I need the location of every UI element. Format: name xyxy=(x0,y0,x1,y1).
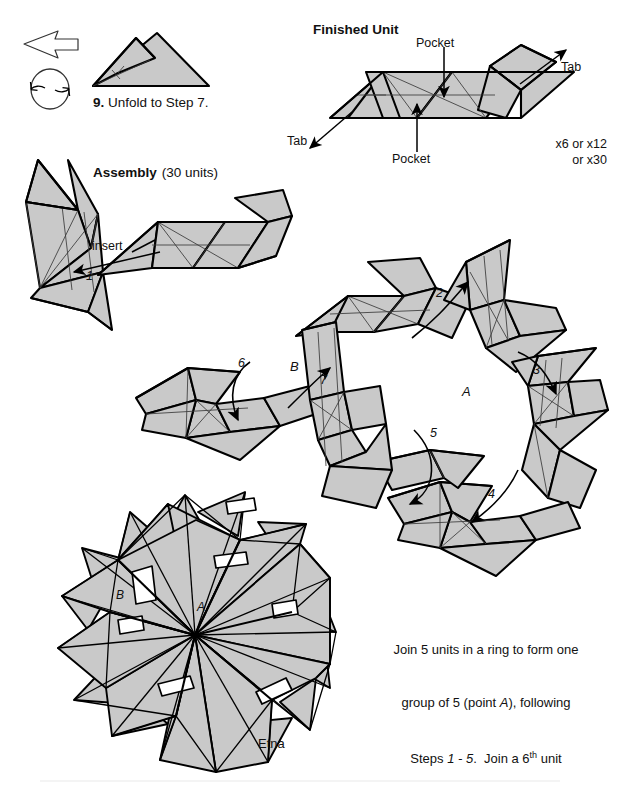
instr-3sup: th xyxy=(530,750,538,760)
instructions-line-3: Steps 1 - 5. Join a 6th unit xyxy=(358,747,614,768)
model-window-label: B xyxy=(116,588,124,602)
assembly-title: Assembly(30 units) xyxy=(93,165,218,181)
instr-3a: Steps xyxy=(410,751,447,766)
instr-3d: unit xyxy=(537,751,562,766)
tab-right-label: Tab xyxy=(561,60,581,75)
step-number-4: 4 xyxy=(488,487,495,502)
ring-unit-right xyxy=(512,348,608,508)
insert-label: insert xyxy=(92,239,123,254)
quantity-line-1: x6 or x12 xyxy=(455,137,607,152)
step-number-7: 7 xyxy=(320,373,327,388)
window-unit-left xyxy=(136,368,322,460)
assembly-unit-right xyxy=(98,190,292,275)
finished-unit-figure xyxy=(330,45,574,118)
tab-left-label: Tab xyxy=(287,134,307,149)
step-number-2: 2 xyxy=(436,286,443,301)
step-number-5: 5 xyxy=(430,426,437,441)
window-unit-vertical xyxy=(302,322,392,508)
pocket-top-label: Pocket xyxy=(416,36,454,51)
instr-3c: . Join a 6 xyxy=(473,751,529,766)
finished-unit-title: Finished Unit xyxy=(313,22,399,38)
diagram-page: 9. Unfold to Step 7. Finished Unit Pocke… xyxy=(0,0,617,795)
assembly-title-sub: (30 units) xyxy=(162,165,218,180)
model-center-label: A xyxy=(197,600,205,614)
instructions-line-1: Join 5 units in a ring to form one xyxy=(358,641,614,659)
instr-2c: ), following xyxy=(508,695,570,710)
model-caption: Etna xyxy=(258,736,285,751)
instr-2a: group of 5 (point xyxy=(401,695,499,710)
step9-caption: 9. Unfold to Step 7. xyxy=(93,95,209,111)
rotate-icon xyxy=(31,69,70,109)
ring-unit-upper-right xyxy=(444,240,566,372)
step9-text: Unfold to Step 7. xyxy=(104,95,208,110)
step-number-6: 6 xyxy=(238,356,245,371)
assembly-point-a: A xyxy=(462,384,471,399)
step9-number: 9. xyxy=(93,95,104,110)
step-number-3: 3 xyxy=(533,363,540,378)
quantity-line-2: or x30 xyxy=(455,153,607,168)
instructions-paragraph: Join 5 units in a ring to form one group… xyxy=(358,606,614,795)
assembly-point-b: B xyxy=(290,359,299,374)
instructions-line-2: group of 5 (point A), following xyxy=(358,694,614,712)
step-number-1: 1 xyxy=(86,269,93,284)
pocket-bottom-label: Pocket xyxy=(392,152,430,167)
instr-3b: 1 - 5 xyxy=(447,751,473,766)
assembly-title-main: Assembly xyxy=(93,165,157,180)
etna-finished-model xyxy=(58,492,336,772)
turn-over-arrow-icon xyxy=(24,31,78,58)
step9-triangle-figure xyxy=(93,33,209,86)
